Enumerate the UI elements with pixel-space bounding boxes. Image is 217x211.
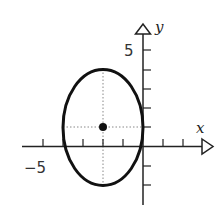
- y-axis-arrow-icon: [136, 24, 151, 34]
- y-axis-ticks: [143, 50, 151, 185]
- y-axis-label: y: [154, 18, 164, 36]
- y-tick-label-5: 5: [124, 42, 134, 60]
- center-point: [99, 123, 107, 131]
- chart-canvas: −5 5 x y: [0, 0, 217, 211]
- x-axis-arrow-icon: [202, 139, 213, 154]
- x-tick-label-neg5: −5: [24, 159, 46, 177]
- x-axis-label: x: [196, 119, 205, 137]
